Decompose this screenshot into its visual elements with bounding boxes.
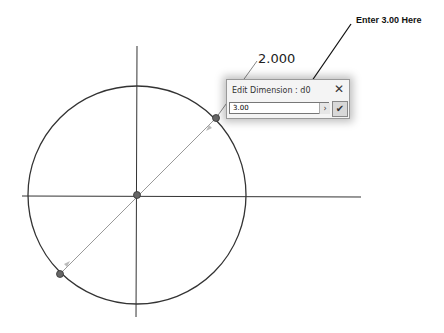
dimension-value-input[interactable]: 3.00	[229, 102, 329, 114]
center-point[interactable]	[134, 192, 141, 199]
edit-dimension-dialog: Edit Dimension : d0 ✕ 3.00 › ✔	[226, 79, 350, 119]
close-icon[interactable]: ✕	[334, 82, 344, 96]
dimension-arrowhead	[206, 125, 212, 131]
sketch-geometry	[0, 0, 444, 333]
checkmark-icon[interactable]: ✔	[332, 101, 348, 117]
dimension-arrowhead	[64, 261, 70, 267]
dimension-value-label[interactable]: 2.000	[258, 51, 295, 66]
callout-text: Enter 3.00 Here	[356, 15, 422, 25]
chevron-right-icon[interactable]: ›	[319, 103, 330, 114]
horizontal-axis	[22, 196, 361, 197]
endpoint-top-right[interactable]	[213, 115, 220, 122]
dialog-title: Edit Dimension : d0	[232, 86, 311, 95]
endpoint-bottom-left[interactable]	[57, 271, 64, 278]
sketch-canvas[interactable]: 2.000 Enter 3.00 Here Edit Dimension : d…	[0, 0, 444, 333]
